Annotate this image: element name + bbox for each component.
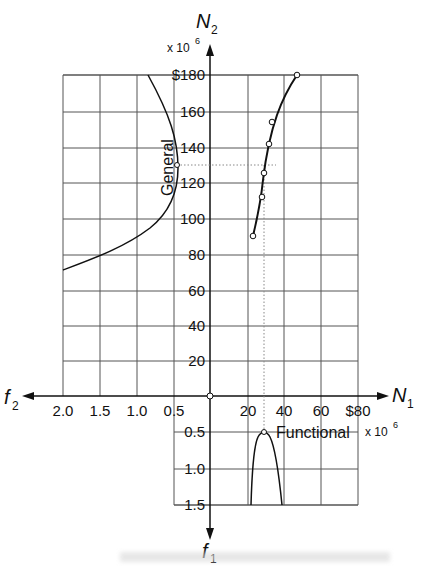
f1-arrow-icon — [206, 528, 214, 540]
svg-text:$80: $80 — [345, 402, 370, 419]
svg-text:160: 160 — [180, 103, 205, 120]
svg-text:x 10: x 10 — [167, 41, 190, 55]
svg-text:40: 40 — [188, 317, 205, 334]
f1-tick-labels: 0.5 1.0 1.5 — [184, 423, 205, 513]
svg-text:60: 60 — [188, 282, 205, 299]
svg-text:80: 80 — [188, 246, 205, 263]
svg-text:6: 6 — [393, 420, 398, 430]
svg-text:2: 2 — [12, 399, 19, 413]
n1-arrow-icon — [377, 392, 389, 400]
svg-text:20: 20 — [188, 352, 205, 369]
svg-text:2.0: 2.0 — [53, 402, 74, 419]
n1-tick-labels: 20 40 60 $80 — [240, 402, 371, 419]
svg-text:20: 20 — [240, 402, 257, 419]
svg-text:0.5: 0.5 — [164, 402, 185, 419]
functional-point — [262, 430, 267, 435]
svg-text:1.0: 1.0 — [127, 402, 148, 419]
svg-text:N: N — [392, 384, 407, 406]
svg-text:60: 60 — [313, 402, 330, 419]
functional-label: Functional — [276, 424, 350, 441]
svg-text:x 10: x 10 — [365, 425, 388, 439]
n2-arrow-icon — [206, 44, 214, 56]
n2-tick-labels: 20 40 60 80 100 120 140 160 $180 — [172, 66, 205, 369]
four-quadrant-chart: N 2 x 10 6 N 1 x 10 6 f 2 f 1 20 40 60 8… — [0, 0, 431, 567]
n1-n2-curve — [253, 75, 297, 236]
svg-text:140: 140 — [180, 139, 205, 156]
svg-text:2: 2 — [211, 23, 218, 37]
svg-text:1: 1 — [407, 397, 414, 411]
origin-marker — [207, 393, 213, 399]
f2-arrow-icon — [22, 392, 34, 400]
svg-text:40: 40 — [276, 402, 293, 419]
svg-text:120: 120 — [180, 174, 205, 191]
svg-text:$180: $180 — [172, 66, 205, 83]
svg-text:f: f — [4, 386, 12, 408]
svg-text:1.5: 1.5 — [184, 496, 205, 513]
f2-tick-labels: 2.0 1.5 1.0 0.5 — [53, 402, 185, 419]
svg-text:100: 100 — [180, 210, 205, 227]
svg-text:1.0: 1.0 — [184, 460, 205, 477]
figure-caption-illegible — [120, 552, 390, 562]
svg-text:6: 6 — [195, 36, 200, 46]
svg-text:1.5: 1.5 — [90, 402, 111, 419]
svg-text:0.5: 0.5 — [184, 423, 205, 440]
n1-axis-label: N 1 x 10 6 — [365, 384, 414, 439]
general-label: General — [159, 139, 176, 196]
svg-text:N: N — [196, 10, 211, 32]
f2-axis-label: f 2 — [4, 386, 19, 413]
